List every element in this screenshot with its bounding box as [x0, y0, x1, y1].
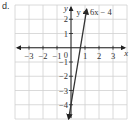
x-tick-label: 1	[83, 51, 87, 61]
x-axis-label: x	[123, 48, 128, 58]
y-tick-label: 2	[64, 14, 68, 24]
y-axis-label: y	[63, 3, 68, 13]
equation-label: y = 6x − 4	[77, 7, 113, 17]
y-tick-label: −2	[59, 71, 68, 81]
x-tick-label: −3	[24, 51, 33, 61]
y-tick-label: −4	[59, 100, 69, 110]
coordinate-plane: −3−2−112321−1−2−3−40xyy = 6x − 4	[0, 0, 131, 128]
x-tick-label: 2	[97, 51, 101, 61]
y-tick-label: 1	[64, 29, 68, 39]
origin-label: 0	[64, 50, 68, 60]
x-tick-label: 3	[111, 51, 115, 61]
y-tick-label: −3	[59, 86, 68, 96]
x-tick-label: −2	[38, 51, 47, 61]
